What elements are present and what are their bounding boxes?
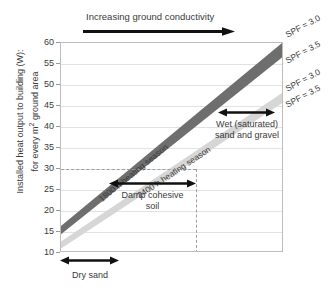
y-axis-tick-30: 30	[36, 164, 54, 173]
chart-root: Installed heat output to building (W): f…	[0, 0, 332, 296]
y-axis-tickmark	[56, 252, 60, 253]
y-axis-tick-55: 55	[36, 59, 54, 68]
wet-sand-label: Wet (saturated) sand and gravel	[193, 119, 283, 141]
y-axis-tick-15: 15	[36, 227, 54, 236]
dry-sand-arrow-icon	[60, 256, 119, 265]
y-axis-tick-40: 40	[36, 122, 54, 131]
increasing-conductivity-label: Increasing ground conductivity	[86, 11, 214, 22]
y-axis-tick-50: 50	[36, 80, 54, 89]
plot-area: 1800 h heating season 2400 h heating sea…	[60, 42, 283, 252]
y-axis-tick-10: 10	[36, 248, 54, 257]
wet-sand-arrow-icon	[218, 108, 275, 117]
y-axis-label-line1: Installed heat output to building (W):	[15, 49, 25, 193]
y-axis-tick-60: 60	[36, 38, 54, 47]
spf-label-2: SPF = 3.5	[284, 39, 322, 66]
y-axis-tick-35: 35	[36, 143, 54, 152]
y-axis-tick-25: 25	[36, 185, 54, 194]
spf-label-1: SPF = 3.0	[284, 13, 322, 40]
increasing-conductivity-arrow-icon	[83, 27, 235, 36]
y-axis-tick-20: 20	[36, 206, 54, 215]
damp-soil-arrow-icon	[109, 179, 196, 188]
data-band-group	[61, 43, 282, 251]
damp-soil-label: Damp cohesive soil	[99, 190, 206, 212]
y-axis-tick-45: 45	[36, 101, 54, 110]
dry-sand-label: Dry sand	[52, 270, 128, 281]
y-axis-label-superscript: 2	[28, 123, 35, 127]
